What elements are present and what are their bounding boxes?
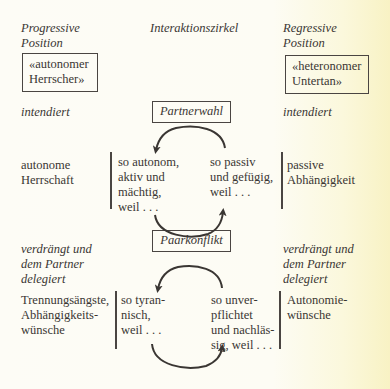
arrow-bottom-2 — [152, 344, 222, 368]
arrow-bottom-1 — [155, 212, 223, 237]
arrow-top-2 — [158, 266, 222, 289]
cycle-arrows — [0, 0, 390, 389]
arrow-top-1 — [156, 127, 225, 150]
